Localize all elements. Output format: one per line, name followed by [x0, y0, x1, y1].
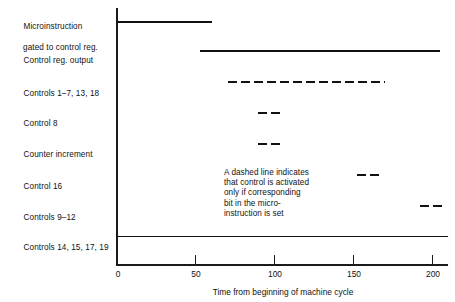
row-label-line1: Controls 9–12 — [24, 213, 76, 222]
trace-microinstruction-gated — [117, 21, 212, 23]
row-label-control-16: Control 16 — [14, 171, 110, 203]
row-label-line1: Controls 14, 15, 17, 19 — [24, 243, 109, 252]
trace-control-16 — [357, 174, 379, 176]
tick-0 — [116, 255, 117, 265]
trace-controls-14-15-17-19 — [116, 236, 448, 237]
tick-label-100: 100 — [268, 270, 282, 279]
row-label-line1: Microinstruction — [24, 22, 83, 31]
tick-200 — [432, 255, 433, 265]
tick-label-150: 150 — [347, 270, 361, 279]
vertical-axis — [116, 8, 118, 266]
tick-100 — [274, 255, 275, 265]
row-label-controls-1-7-13-18: Controls 1–7, 13, 18 — [14, 78, 110, 110]
tick-50 — [195, 255, 196, 265]
row-label-control-reg-output: Control reg. output — [14, 45, 110, 77]
horizontal-axis — [116, 264, 448, 266]
trace-controls-9-12 — [420, 205, 442, 207]
tick-label-0: 0 — [116, 270, 121, 279]
row-label-controls-9-12: Controls 9–12 — [14, 202, 110, 234]
row-label-line1: Control 8 — [24, 119, 58, 128]
trace-control-8 — [258, 112, 280, 114]
dashed-line-annotation: A dashed line indicates that control is … — [224, 168, 339, 219]
trace-controls-1-7-13-18 — [228, 81, 385, 83]
tick-label-50: 50 — [191, 270, 200, 279]
row-label-line1: Control 16 — [24, 182, 63, 191]
tick-150 — [353, 255, 354, 265]
tick-label-200: 200 — [426, 270, 440, 279]
row-label-line1: Control reg. output — [24, 56, 94, 65]
timing-diagram-figure: Microinstruction gated to control reg. C… — [0, 0, 455, 302]
row-label-controls-14-15-17-19: Controls 14, 15, 17, 19 — [14, 232, 114, 264]
row-label-control-8: Control 8 — [14, 108, 110, 140]
trace-control-reg-output — [200, 50, 440, 52]
row-label-counter-increment: Counter increment — [14, 139, 110, 171]
row-label-line1: Counter increment — [24, 150, 93, 159]
trace-counter-increment — [258, 143, 280, 145]
row-label-line1: Controls 1–7, 13, 18 — [24, 89, 100, 98]
x-axis-title: Time from beginning of machine cycle — [213, 287, 354, 297]
